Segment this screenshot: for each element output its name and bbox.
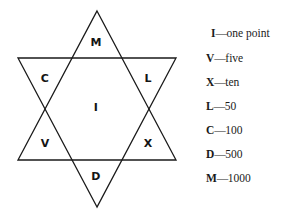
- legend-symbol: M: [206, 173, 217, 185]
- legend-item: V—five: [206, 46, 295, 70]
- legend-dash: —: [214, 149, 225, 161]
- legend-dash: —: [214, 53, 225, 65]
- legend-dash: —: [217, 173, 228, 185]
- star-label-m: M: [90, 37, 101, 48]
- legend-meaning: one point: [226, 28, 269, 40]
- legend-meaning: five: [225, 53, 243, 65]
- star-label-d: D: [91, 171, 100, 182]
- legend-item: I—one point: [206, 22, 295, 46]
- legend-symbol: L: [206, 101, 214, 113]
- legend-dash: —: [214, 101, 225, 113]
- legend-item: X—ten: [206, 70, 295, 94]
- legend-meaning: ten: [225, 77, 239, 89]
- legend-item: L—50: [206, 95, 295, 119]
- star-label-v: V: [41, 138, 50, 149]
- star-label-i: I: [94, 102, 98, 113]
- legend-dash: —: [215, 28, 226, 40]
- legend-item: D—500: [206, 143, 295, 167]
- star-label-x: X: [144, 138, 153, 149]
- star-diagram: M C L I V X D: [0, 0, 190, 213]
- star-label-l: L: [144, 73, 151, 84]
- legend-meaning: 100: [225, 125, 242, 137]
- roman-numeral-star-figure: M C L I V X D I—one point V—five X—ten L…: [0, 0, 295, 213]
- legend-meaning: 500: [225, 149, 242, 161]
- legend-dash: —: [214, 77, 225, 89]
- legend-dash: —: [214, 125, 225, 137]
- legend-item: C—100: [206, 119, 295, 143]
- legend-item: M—1000: [206, 167, 295, 191]
- legend-meaning: 1000: [228, 173, 251, 185]
- star-label-c: C: [41, 73, 49, 84]
- legend-meaning: 50: [225, 101, 237, 113]
- legend: I—one point V—five X—ten L—50 C—100 D—50…: [206, 22, 295, 191]
